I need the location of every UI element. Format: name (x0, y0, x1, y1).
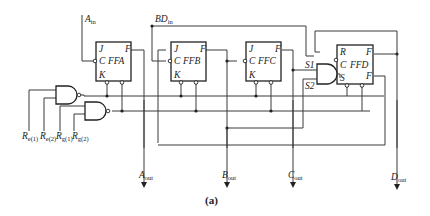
svg-text:K: K (98, 70, 106, 80)
flipflop-ffd: R F C FFD S F (334, 45, 373, 87)
flipflop-ffa: J F C FFA K (93, 42, 131, 84)
bd-in-label: BDin (155, 14, 173, 25)
reset-label-e1: Re(1) (21, 131, 38, 143)
svg-text:FFB: FFB (182, 56, 201, 66)
nand-gate-bottom (85, 102, 110, 120)
a-in-label: Ain (84, 14, 97, 25)
svg-text:S2: S2 (305, 81, 315, 91)
bd-in-wire (152, 26, 166, 61)
flipflop-ffb: J F C FFB K (168, 42, 206, 84)
svg-text:K: K (173, 70, 181, 80)
svg-text:F: F (199, 44, 206, 54)
svg-text:C: C (99, 56, 106, 66)
svg-text:FFC: FFC (257, 56, 277, 66)
svg-text:K: K (248, 70, 256, 80)
reset-label-g1: Rg(1) (55, 131, 73, 143)
svg-text:C: C (174, 56, 181, 66)
svg-text:S1: S1 (305, 60, 315, 70)
c-out-wire (282, 50, 293, 148)
reset-label-e2: Re(2) (39, 131, 56, 143)
svg-text:FFD: FFD (349, 60, 369, 70)
c-out-label: Cout (288, 170, 303, 181)
d-out-label: Dout (390, 172, 406, 183)
svg-text:F: F (365, 71, 372, 81)
svg-text:C: C (340, 60, 347, 70)
b-out-wire (205, 50, 227, 148)
svg-text:R: R (339, 47, 346, 57)
svg-text:F: F (365, 47, 372, 57)
b-out-label: Bout (222, 170, 236, 181)
and-gate: S1 S2 (305, 60, 340, 91)
a-out-label: Aout (138, 170, 153, 181)
reset-label-g2: Rg(2) (71, 131, 89, 143)
svg-text:S: S (340, 73, 345, 83)
nand-gate-top (56, 86, 84, 104)
a-out-wire (131, 50, 144, 148)
flipflop-ffc: J F C FFC K (243, 42, 281, 84)
counter-circuit-diagram: J F C FFA K J F C FFB K J F C FFC K R F … (0, 0, 430, 216)
figure-caption: (a) (205, 194, 218, 207)
svg-text:FFA: FFA (107, 56, 124, 66)
svg-text:C: C (249, 56, 256, 66)
svg-text:F: F (124, 44, 131, 54)
svg-text:F: F (274, 44, 281, 54)
